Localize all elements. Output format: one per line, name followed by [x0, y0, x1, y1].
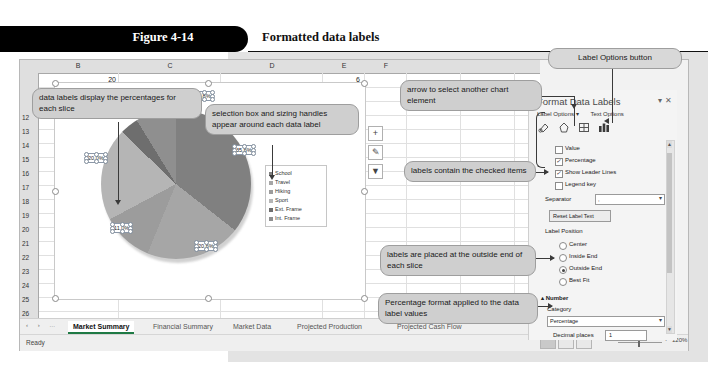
separator-combo[interactable]: , — [595, 194, 665, 205]
legend-item-sport: Sport — [269, 196, 323, 205]
separator-label: Separator — [545, 196, 571, 202]
leader-arrow-2 — [269, 175, 275, 180]
row-header-12[interactable]: 12 — [22, 114, 29, 121]
chart-handle-middle-right[interactable] — [361, 188, 368, 195]
row-header-23[interactable]: 23 — [22, 268, 29, 275]
row-header-25[interactable]: 25 — [22, 296, 29, 303]
data-label-sport[interactable]: 20.0% — [85, 153, 107, 163]
row-header-24[interactable]: 24 — [22, 282, 29, 289]
row-header-17[interactable]: 17 — [22, 184, 29, 191]
figure-title: Formatted data labels — [262, 30, 379, 45]
column-header-b[interactable]: B — [38, 62, 118, 69]
figure-number: Figure 4-14 — [88, 30, 238, 45]
callout-labels-checked-items: labels contain the checked items — [404, 161, 536, 182]
scroll-down-arrow[interactable]: ▼ — [667, 326, 672, 333]
reset-label-text-button[interactable]: Reset Label Text — [549, 210, 611, 222]
chart-elements-button[interactable]: + — [368, 126, 383, 141]
callout-label-options-button: Label Options button — [548, 48, 682, 69]
number-section-heading[interactable]: Number — [541, 294, 568, 301]
data-label-school[interactable]: 35.6% — [233, 145, 255, 155]
sheet-tab-market-summary[interactable]: Market Summary — [68, 321, 134, 334]
decimal-places-input[interactable]: 1 — [605, 330, 647, 341]
size-properties-icon[interactable] — [577, 120, 591, 133]
chart-filters-button[interactable]: ▼ — [368, 164, 383, 179]
legend-item-ext-frame: Ext. Frame — [269, 205, 323, 214]
label-contains-brace — [536, 112, 545, 168]
column-header-f[interactable]: F — [366, 62, 406, 69]
row-header-20[interactable]: 20 — [22, 226, 29, 233]
row-header-16[interactable]: 16 — [22, 170, 29, 177]
leader-arrow-6 — [548, 303, 553, 309]
data-label-hiking[interactable]: 11.0% — [111, 223, 132, 233]
column-header-row: B C D E F — [20, 60, 540, 74]
callout-data-labels-percentages: data labels display the percentages for … — [32, 88, 202, 119]
chart-handle-middle-left[interactable] — [52, 188, 59, 195]
leader-arrow-4 — [544, 169, 549, 175]
chart-handle-bottom-right[interactable] — [361, 295, 368, 302]
scroll-up-arrow[interactable]: ▲ — [667, 141, 672, 148]
pane-icon-row — [537, 120, 667, 136]
tab-text-options[interactable]: Text Options — [590, 111, 623, 117]
decimal-places-label: Decimal places — [553, 332, 594, 338]
chart-side-buttons: + ✎ ▼ — [368, 126, 381, 183]
row-header-13[interactable]: 13 — [22, 128, 29, 135]
column-header-e[interactable]: E — [324, 62, 364, 69]
legend-item-school: School — [269, 169, 323, 178]
zoom-slider-track[interactable] — [618, 342, 662, 343]
row-header-14[interactable]: 14 — [22, 142, 29, 149]
chart-styles-button[interactable]: ✎ — [368, 145, 383, 160]
sheet-tab-projected-production[interactable]: Projected Production — [292, 321, 367, 332]
row-header-22[interactable]: 22 — [22, 254, 29, 261]
scroll-thumb[interactable] — [667, 153, 672, 273]
label-position-heading: Label Position — [545, 228, 583, 234]
legend-item-int-frame: Int. Frame — [269, 214, 323, 223]
pane-close-icon[interactable]: ✕ — [665, 96, 672, 105]
pane-tab-row: Label Options ▾ Text Options — [537, 110, 624, 117]
leader-line-7 — [612, 68, 613, 123]
leader-line-1 — [118, 122, 119, 200]
row-header-26[interactable]: 26 — [22, 310, 29, 317]
leader-arrow-7 — [604, 118, 609, 124]
row-header-21[interactable]: 21 — [22, 240, 29, 247]
pane-body: Value Percentage Show Leader Lines Legen… — [533, 140, 673, 332]
pane-minimize-icon[interactable]: ▾ — [658, 96, 662, 105]
leader-arrow-5 — [550, 255, 555, 261]
callout-selection-box: selection box and sizing handles appear … — [205, 104, 359, 135]
row-header-18[interactable]: 18 — [22, 198, 29, 205]
column-header-c[interactable]: C — [120, 62, 220, 69]
row-header-19[interactable]: 19 — [22, 212, 29, 219]
legend-item-travel: Travel — [269, 178, 323, 187]
chart-handle-bottom-center[interactable] — [205, 295, 212, 302]
category-combo[interactable]: Percentage — [547, 316, 665, 327]
row-header-15[interactable]: 15 — [22, 156, 29, 163]
callout-percentage-format: Percentage format applied to the data la… — [378, 293, 538, 324]
chart-handle-top-left[interactable] — [52, 80, 59, 87]
pane-title: Format Data Labels — [537, 96, 620, 107]
leader-arrow-1 — [115, 200, 121, 205]
sheet-tab-financial-summary[interactable]: Financial Summary — [148, 321, 218, 332]
callout-labels-outside-end: labels are placed at the outside end of … — [380, 245, 536, 276]
chart-handle-bottom-left[interactable] — [52, 295, 59, 302]
status-ready-text: Ready — [26, 339, 45, 346]
data-label-travel[interactable]: 20.6% — [195, 241, 217, 251]
effects-icon[interactable] — [557, 120, 571, 133]
leader-line-3a — [574, 96, 575, 126]
chart-handle-top-center[interactable] — [205, 80, 212, 87]
pane-scrollbar[interactable]: ▲ ▼ — [666, 140, 675, 334]
sheet-tab-market-data[interactable]: Market Data — [228, 321, 276, 332]
column-header-d[interactable]: D — [222, 62, 322, 69]
sheet-nav-buttons[interactable]: ‹ › … — [26, 322, 59, 328]
legend-item-hiking: Hiking — [269, 187, 323, 196]
leader-line-2 — [272, 145, 273, 175]
leader-arrow-3 — [571, 104, 577, 109]
chart-handle-top-right[interactable] — [361, 80, 368, 87]
callout-arrow-select-element: arrow to select another chart element — [400, 80, 542, 111]
